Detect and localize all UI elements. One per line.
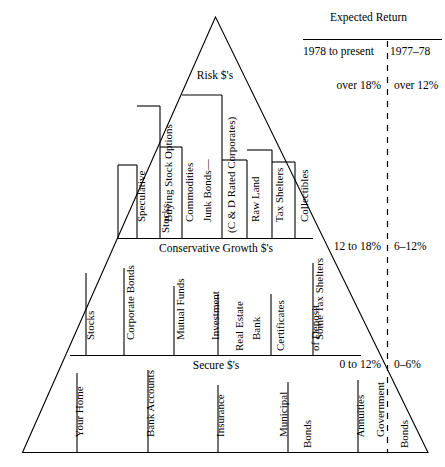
secure-item-label-line2: Bonds <box>302 392 314 448</box>
tier-caption-risk: Risk $'s <box>197 69 233 81</box>
conservative-item-label-line1: Some Tax Shelters <box>313 258 325 340</box>
tier-caption-conservative-growth: Conservative Growth $'s <box>159 242 273 254</box>
tier-caption-secure: Secure $'s <box>193 359 239 371</box>
secure-item-label-line2: Bonds <box>399 382 411 448</box>
risk-item-label-line1: Junk Bonds— <box>201 159 213 222</box>
conservative-item-mutual-funds: Mutual Funds <box>163 279 199 351</box>
risk-item-label-line1: Raw Land <box>249 176 261 222</box>
expected-return-title: Expected Return <box>330 11 407 23</box>
secure-item-label-line1: Insurance <box>214 394 226 437</box>
risk-item-label-line1: Speculative <box>135 171 147 222</box>
secure-item-your-home: Your Home <box>62 386 98 448</box>
risk-item-label-line1: Collectibles <box>298 169 310 222</box>
secure-item-label-line1: Government <box>374 382 386 437</box>
secure-item-label-line1: Your Home <box>73 386 85 437</box>
return-risk-prior: over 12% <box>394 79 438 91</box>
risk-item-label-line2: (C & D Rated Corporates) <box>226 117 238 233</box>
conservative-item-corporate-bonds: Corporate Bonds <box>113 265 149 351</box>
conservative-item-label-line1: Bank <box>250 317 262 340</box>
secure-item-bank-accounts: Bank Accounts <box>133 370 169 448</box>
risk-item-collectibles: Collectibles <box>287 169 323 233</box>
conservative-item-some-tax-shelters: Some Tax Shelters <box>302 258 338 351</box>
risk-pyramid-figure: Expected Return 1978 to present 1977–78 … <box>0 0 445 467</box>
return-secure-prior: 0–6% <box>394 358 421 370</box>
conservative-item-label-line1: Mutual Funds <box>174 279 186 340</box>
conservative-item-label-line1: Corporate Bonds <box>124 265 136 340</box>
secure-item-label-line1: Municipal <box>277 392 289 437</box>
return-conservative-current: 12 to 18% <box>334 240 381 252</box>
conservative-item-label-line2: Certificates <box>275 300 287 351</box>
header-column-current: 1978 to present <box>303 45 374 57</box>
secure-item-government-bonds: Government Bonds <box>363 382 434 448</box>
conservative-item-label-line1: Investment <box>209 291 221 340</box>
header-column-prior: 1977–78 <box>390 45 430 57</box>
return-conservative-prior: 6–12% <box>394 240 427 252</box>
secure-item-label-line1: Bank Accounts <box>144 370 156 437</box>
secure-item-municipal-bonds: Municipal Bonds <box>266 392 337 448</box>
return-risk-current: over 18% <box>337 79 381 91</box>
conservative-item-stocks: Stocks <box>73 311 109 351</box>
conservative-item-label-line1: Stocks <box>84 311 96 340</box>
risk-item-label-line1: Tax Shelters <box>273 168 285 223</box>
return-secure-current: 0 to 12% <box>339 358 381 370</box>
secure-item-insurance: Insurance <box>203 394 239 448</box>
